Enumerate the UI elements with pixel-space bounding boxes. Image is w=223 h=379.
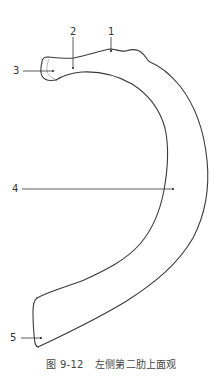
callout-label-3: 3 — [13, 66, 19, 76]
rib-figure: 1 2 3 4 5 图 9-12 左侧第二肋上面观 — [0, 0, 223, 379]
callout-label-1: 1 — [108, 27, 114, 37]
callout-label-5: 5 — [10, 333, 16, 343]
figure-caption: 图 9-12 左侧第二肋上面观 — [0, 356, 223, 371]
leader-lines — [21, 37, 173, 338]
leader-dot-1 — [110, 50, 112, 52]
figure-title: 左侧第二肋上面观 — [95, 359, 177, 370]
callout-label-4: 4 — [12, 184, 18, 194]
leader-dot-4 — [172, 188, 174, 190]
rib-head-facet — [47, 59, 55, 79]
leader-dots — [40, 50, 174, 339]
rib-inner-border — [37, 72, 168, 298]
rib-anterior-end — [33, 298, 38, 347]
rib-outer-border — [38, 49, 208, 347]
leader-dot-3 — [52, 70, 54, 72]
figure-number: 图 9-12 — [46, 359, 83, 370]
rib-illustration — [0, 0, 223, 379]
leader-dot-2 — [72, 67, 74, 69]
callout-label-2: 2 — [70, 27, 76, 37]
leader-dot-5 — [40, 337, 42, 339]
